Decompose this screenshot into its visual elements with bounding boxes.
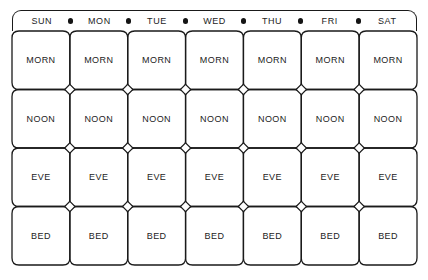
- diamond-marker-icon: [180, 201, 190, 211]
- diamond-marker-icon: [180, 143, 190, 153]
- diamond-marker-icon: [238, 143, 248, 153]
- schedule-cell[interactable]: [243, 90, 301, 149]
- schedule-cell[interactable]: [12, 207, 70, 266]
- schedule-cell[interactable]: [359, 148, 417, 207]
- schedule-cell[interactable]: [243, 207, 301, 266]
- schedule-cell[interactable]: [243, 148, 301, 207]
- schedule-cell[interactable]: [70, 90, 128, 149]
- schedule-cell[interactable]: [301, 148, 359, 207]
- schedule-cell[interactable]: [186, 148, 244, 207]
- schedule-cell[interactable]: [359, 90, 417, 149]
- schedule-cell[interactable]: [359, 207, 417, 266]
- schedule-cell[interactable]: [301, 207, 359, 266]
- diamond-marker-icon: [180, 84, 190, 94]
- schedule-cell[interactable]: [243, 31, 301, 90]
- schedule-cell[interactable]: [359, 31, 417, 90]
- diamond-marker-icon: [123, 143, 133, 153]
- diamond-marker-icon: [238, 84, 248, 94]
- schedule-cell[interactable]: [186, 90, 244, 149]
- diamond-marker-icon: [296, 201, 306, 211]
- schedule-cell[interactable]: [12, 148, 70, 207]
- diamond-marker-icon: [238, 201, 248, 211]
- diamond-marker-icon: [123, 201, 133, 211]
- diamond-marker-icon: [65, 201, 75, 211]
- diamond-marker-icon: [65, 143, 75, 153]
- schedule-grid: [0, 0, 428, 280]
- schedule-cell[interactable]: [186, 207, 244, 266]
- schedule-cell[interactable]: [128, 207, 186, 266]
- schedule-cell[interactable]: [70, 148, 128, 207]
- diamond-marker-icon: [65, 84, 75, 94]
- schedule-cell[interactable]: [70, 31, 128, 90]
- diamond-marker-icon: [354, 201, 364, 211]
- diamond-marker-icon: [354, 143, 364, 153]
- schedule-cell[interactable]: [128, 148, 186, 207]
- diamond-marker-icon: [296, 143, 306, 153]
- schedule-cell[interactable]: [301, 90, 359, 149]
- diamond-marker-icon: [296, 84, 306, 94]
- diamond-marker-icon: [123, 84, 133, 94]
- medication-schedule-page: SUN MON TUE WED THU FRI SAT MORNMORNMORN…: [0, 0, 428, 280]
- schedule-cell[interactable]: [128, 90, 186, 149]
- schedule-cell[interactable]: [186, 31, 244, 90]
- schedule-cell[interactable]: [12, 90, 70, 149]
- schedule-cell[interactable]: [128, 31, 186, 90]
- schedule-cell[interactable]: [301, 31, 359, 90]
- schedule-cell[interactable]: [12, 31, 70, 90]
- diamond-marker-icon: [354, 84, 364, 94]
- schedule-cell[interactable]: [70, 207, 128, 266]
